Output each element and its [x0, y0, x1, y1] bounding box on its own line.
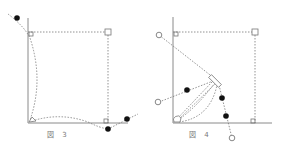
- fig4-corner-marker-topleft: [174, 32, 178, 36]
- fig3-arc-upper: [8, 14, 37, 120]
- fig3-square-marker-topright: [105, 29, 111, 35]
- fig4-line-origin-to-tilted-a: [176, 82, 212, 120]
- fig4-hollow-dot-bottom: [229, 135, 235, 141]
- fig3-filled-dot-topleft: [14, 15, 20, 21]
- fig4-line-origin-to-tilted-b: [177, 84, 215, 121]
- fig4-hollow-dot-topleft: [156, 32, 162, 38]
- diagram-canvas: [0, 0, 281, 150]
- figure-3: [8, 14, 138, 132]
- figure-3-caption: 図 3: [47, 129, 70, 139]
- figure-4: [155, 17, 272, 141]
- fig3-corner-marker-bottomright: [104, 119, 108, 123]
- fig3-filled-dot-right: [124, 116, 130, 122]
- fig4-corner-marker-bottomright: [251, 119, 255, 123]
- figure-4-caption: 図 4: [189, 129, 212, 139]
- fig4-line-tilted-to-bottom: [219, 85, 232, 138]
- fig4-hollow-dot-left: [155, 99, 161, 105]
- fig3-filled-dot-bottom: [105, 126, 111, 132]
- fig4-square-marker-topright: [252, 29, 258, 35]
- fig4-filled-dot-right-upper: [219, 95, 225, 101]
- fig4-filled-dot-right-lower: [223, 113, 229, 119]
- fig4-filled-dot-left: [184, 87, 190, 93]
- fig4-tilted-rect: [209, 75, 222, 88]
- fig4-line-topleft-to-tilted: [159, 35, 214, 78]
- fig3-arc-lower: [32, 114, 138, 129]
- fig3-corner-marker-topleft: [29, 32, 33, 36]
- fig4-origin-marker: [173, 116, 181, 122]
- fig3-origin-marker: [29, 117, 36, 122]
